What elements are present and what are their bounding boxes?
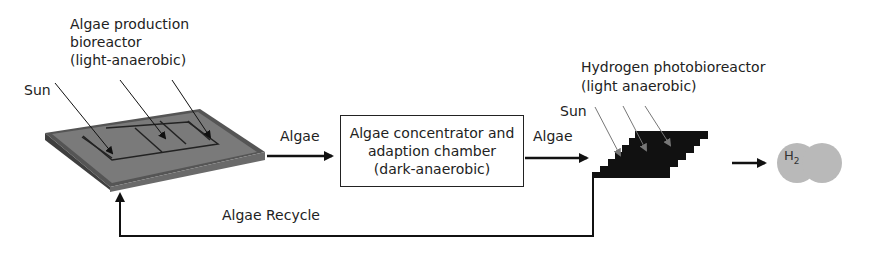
photobioreactor-label-line1: Hydrogen photobioreactor xyxy=(581,58,765,76)
concentrator-chamber-box: Algae concentrator and adaption chamber … xyxy=(340,115,524,187)
sun-label-left: Sun xyxy=(24,81,51,99)
algae-bioreactor-tray xyxy=(45,109,265,192)
hydrogen-photobioreactor-stairs xyxy=(593,131,708,178)
hydrogen-symbol: H xyxy=(784,148,794,163)
sun-label-right: Sun xyxy=(560,102,587,120)
concentrator-label-line2: adaption chamber xyxy=(368,142,496,160)
hydrogen-label: H2 xyxy=(784,148,800,166)
concentrator-label-line1: Algae concentrator and xyxy=(350,124,515,142)
algae-label-1: Algae xyxy=(280,127,320,145)
bioreactor-label-line1: Algae production xyxy=(70,15,189,33)
concentrator-label-line3: (dark-anaerobic) xyxy=(374,160,490,178)
hydrogen-subscript: 2 xyxy=(794,156,800,166)
bioreactor-label-line2: bioreactor xyxy=(70,33,142,51)
photobioreactor-label-line2: (light anaerobic) xyxy=(581,77,697,95)
algae-label-2: Algae xyxy=(533,127,573,145)
algae-recycle-label: Algae Recycle xyxy=(222,206,320,224)
bioreactor-label-line3: (light-anaerobic) xyxy=(70,51,186,69)
